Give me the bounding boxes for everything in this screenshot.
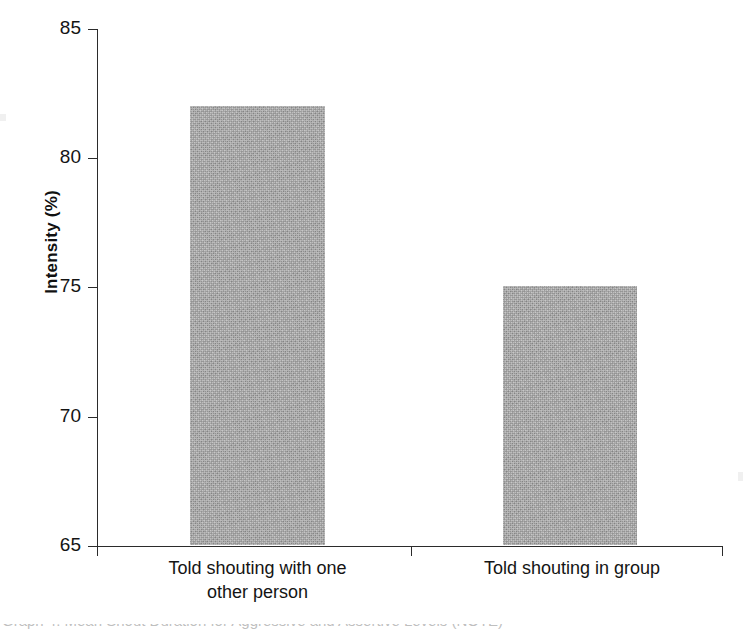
x-category-label-1-line1: Told shouting with one: [130, 556, 385, 580]
bar-chart-figure: Intensity (%) 85 80 75 70 65 Told shouti…: [0, 0, 748, 638]
x-axis-line: [97, 546, 723, 547]
x-tick-start: [97, 546, 98, 556]
y-tick-85: 85: [88, 29, 97, 30]
y-tick-65: 65: [88, 546, 97, 547]
clipped-caption: Graph 4. Mean Shout Duration for Aggress…: [0, 624, 748, 638]
bar-told-shouting-with-one-other-person: [190, 106, 325, 545]
y-axis-title: Intensity (%): [42, 142, 62, 342]
scan-artifact-left: [0, 114, 6, 121]
y-tick-label-85: 85: [60, 18, 81, 38]
y-tick-label-65: 65: [60, 535, 81, 555]
y-axis-line: [97, 29, 98, 547]
bar-told-shouting-in-group: [503, 286, 637, 545]
y-tick-80: 80: [88, 158, 97, 159]
x-category-label-1-line2: other person: [130, 580, 385, 604]
x-category-label-1: Told shouting with one other person: [130, 556, 385, 604]
x-category-label-2: Told shouting in group: [443, 556, 701, 580]
y-tick-label-70: 70: [60, 406, 81, 426]
scan-artifact-right: [738, 472, 743, 481]
x-tick-end: [722, 546, 723, 556]
y-tick-75: 75: [88, 287, 97, 288]
x-category-label-2-line1: Told shouting in group: [443, 556, 701, 580]
clipped-caption-text: Graph 4. Mean Shout Duration for Aggress…: [2, 624, 503, 630]
x-tick-middle: [411, 546, 412, 556]
y-tick-label-75: 75: [60, 276, 81, 296]
plot-area: 85 80 75 70 65: [97, 29, 723, 546]
y-tick-70: 70: [88, 417, 97, 418]
y-tick-label-80: 80: [60, 147, 81, 167]
